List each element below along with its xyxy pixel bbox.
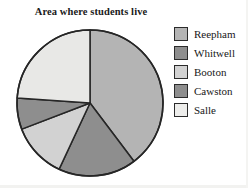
legend-swatch-booton — [174, 65, 188, 79]
legend-item-reepham[interactable]: Reepham — [174, 24, 248, 43]
legend-item-whitwell[interactable]: Whitwell — [174, 43, 248, 62]
legend-item-salle[interactable]: Salle — [174, 100, 248, 119]
legend: Reepham Whitwell Booton Cawston Salle — [174, 24, 248, 128]
pie-chart-svg — [0, 0, 180, 188]
legend-swatch-reepham — [174, 27, 188, 41]
chart-page: Area where students live Reepham Whitwel… — [0, 0, 248, 188]
legend-label-cawston: Cawston — [194, 85, 233, 97]
legend-swatch-whitwell — [174, 46, 188, 60]
legend-label-salle: Salle — [194, 104, 216, 116]
legend-label-booton: Booton — [194, 66, 226, 78]
legend-item-booton[interactable]: Booton — [174, 62, 248, 81]
scan-edge-bottom — [0, 185, 248, 188]
legend-swatch-salle — [174, 103, 188, 117]
legend-label-reepham: Reepham — [194, 28, 236, 40]
pie-slice-salle[interactable] — [17, 30, 90, 103]
legend-item-cawston[interactable]: Cawston — [174, 81, 248, 100]
pie-chart — [0, 0, 180, 188]
legend-swatch-cawston — [174, 84, 188, 98]
scan-edge-right — [246, 0, 248, 188]
legend-label-whitwell: Whitwell — [194, 47, 235, 59]
